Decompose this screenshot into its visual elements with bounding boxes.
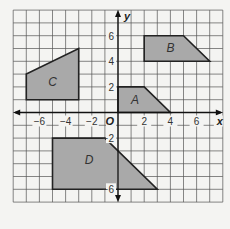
- y-tick-label: 6: [108, 31, 114, 42]
- x-axis-label: x: [216, 115, 224, 127]
- y-tick-label: −6: [103, 184, 115, 195]
- y-axis-arrow-down-icon: [115, 195, 121, 202]
- x-tick-label: 4: [168, 116, 174, 127]
- coordinate-plane: ABCD−6−4−2246642−2−6Oxy: [0, 0, 230, 229]
- shape-label-b: B: [166, 41, 174, 55]
- y-tick-label: −2: [103, 133, 115, 144]
- x-tick-label: 6: [194, 116, 200, 127]
- shape-label-a: A: [130, 93, 139, 107]
- origin-label: O: [105, 115, 114, 127]
- shape-label-d: D: [85, 153, 94, 167]
- x-tick-label: −4: [60, 116, 72, 127]
- y-tick-label: 4: [108, 56, 114, 67]
- y-axis-label: y: [123, 10, 131, 22]
- shape-label-c: C: [48, 75, 57, 89]
- x-tick-label: −6: [34, 116, 46, 127]
- x-tick-label: 2: [141, 116, 147, 127]
- y-axis-arrow-up-icon: [115, 10, 121, 17]
- x-tick-label: −2: [86, 116, 98, 127]
- x-axis-arrow-left-icon: [13, 110, 20, 116]
- axes: [13, 10, 223, 202]
- y-tick-label: 2: [108, 82, 114, 93]
